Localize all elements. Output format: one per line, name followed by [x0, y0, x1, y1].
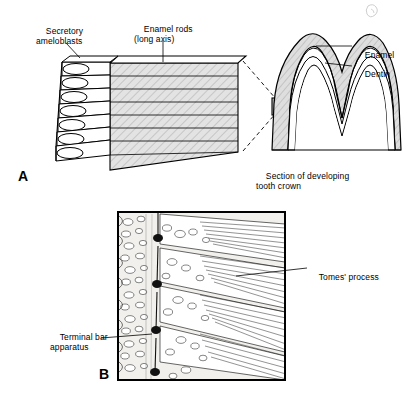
- corner-artifact: [366, 5, 377, 17]
- label-terminal-bar-apparatus: Terminal bar apparatus: [50, 322, 108, 362]
- label-enamel-rods: Enamel rods (long axis): [134, 14, 193, 54]
- enamel-rod-slab: [110, 56, 246, 170]
- label-section-of-developing-tooth-crown: Section of developing tooth crown: [256, 161, 349, 201]
- label-tomes-process: Tomes' process: [309, 262, 379, 292]
- label-secretory-ameloblasts: Secretory ameloblasts: [36, 16, 83, 56]
- micrograph-panel: [116, 212, 287, 380]
- figure-container: Secretory ameloblasts Enamel rods (long …: [0, 0, 416, 399]
- secretory-ameloblast-cells: [56, 56, 118, 161]
- panel-letter-b: B: [99, 366, 109, 382]
- panel-letter-a: A: [18, 168, 28, 184]
- label-dentin: Dentin: [355, 59, 390, 89]
- magnification-connector-lines: [243, 61, 276, 151]
